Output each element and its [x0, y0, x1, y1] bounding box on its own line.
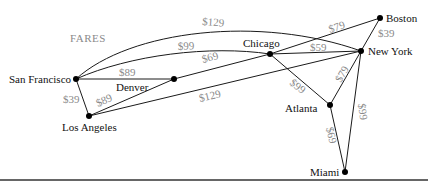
node-chicago — [267, 51, 273, 57]
fares-network-diagram: FARES $129 $99 $89 $39 $69 $89 $129 $79 … — [0, 0, 428, 184]
label-miami: Miami — [310, 166, 339, 178]
fare-sf-denver: $89 — [119, 66, 136, 78]
node-los-angeles — [86, 113, 92, 119]
fare-chicago-atlanta: $99 — [288, 76, 309, 96]
fare-sf-chicago: $99 — [177, 39, 195, 52]
label-san-francisco: San Francisco — [9, 73, 72, 85]
fare-newyork-miami: $99 — [356, 103, 370, 122]
fare-sf-la: $39 — [63, 93, 80, 105]
fare-chicago-newyork: $59 — [310, 41, 327, 53]
node-miami — [342, 169, 348, 175]
node-san-francisco — [73, 76, 79, 82]
edge-sf-chicago — [76, 51, 270, 79]
fare-chicago-boston: $79 — [327, 18, 347, 35]
label-new-york: New York — [368, 45, 413, 57]
label-denver: Denver — [116, 81, 149, 93]
node-boston — [377, 15, 383, 21]
diagram-title: FARES — [70, 32, 106, 44]
edge-denver-chicago — [174, 54, 270, 79]
fare-la-newyork: $129 — [198, 87, 223, 104]
node-atlanta — [327, 102, 333, 108]
label-boston: Boston — [386, 12, 418, 24]
label-chicago: Chicago — [243, 37, 280, 49]
city-nodes — [73, 15, 383, 175]
fare-sf-newyork: $129 — [202, 15, 225, 29]
fare-newyork-boston: $39 — [378, 27, 395, 39]
route-edges — [76, 18, 380, 172]
node-denver — [171, 76, 177, 82]
fare-newyork-atlanta: $79 — [332, 63, 351, 84]
label-atlanta: Atlanta — [285, 102, 317, 114]
label-los-angeles: Los Angeles — [62, 121, 117, 133]
fare-atlanta-miami: $69 — [324, 126, 340, 145]
node-new-york — [358, 48, 364, 54]
